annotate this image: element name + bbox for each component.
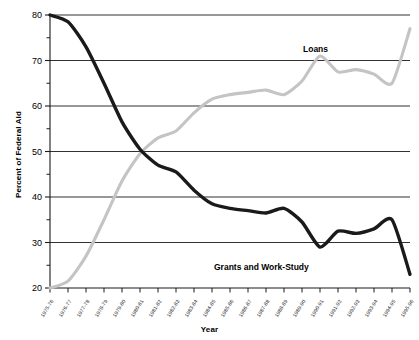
- y-axis-ticks: [45, 15, 50, 288]
- plot-area: [0, 0, 419, 340]
- series-label-loans: Loans: [303, 44, 328, 54]
- series-label-grants: Grants and Work-Study: [214, 262, 309, 272]
- series-line-grants: [50, 15, 410, 274]
- chart-container: Percent of Federal Aid Year 203040506070…: [0, 0, 419, 340]
- series-line-loans: [50, 29, 410, 288]
- x-axis-ticks: [50, 288, 410, 293]
